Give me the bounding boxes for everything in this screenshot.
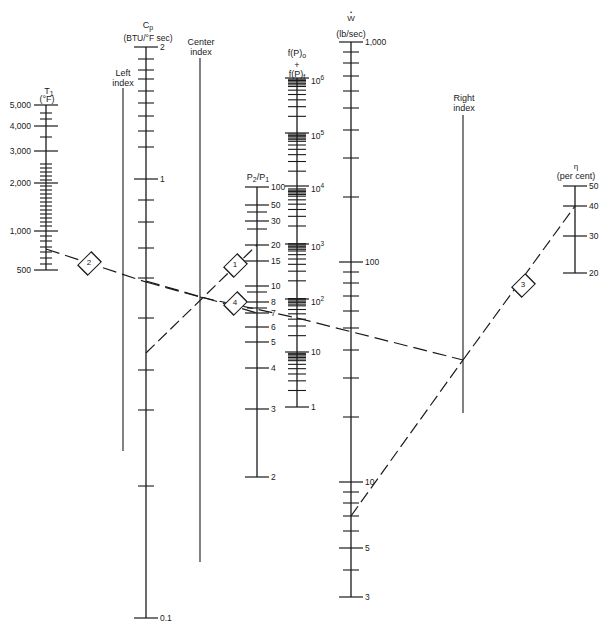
t1-scale-unit: (°F) xyxy=(30,94,64,104)
T1-tick-label: 2,000 xyxy=(10,178,31,188)
center-index-title-2: index xyxy=(182,47,220,57)
w-title-text: W xyxy=(343,15,359,23)
construction-line-center_to_right xyxy=(297,318,463,360)
P2P1-tick-label: 5 xyxy=(271,337,276,347)
center-index-title: Center index xyxy=(182,37,220,57)
T1-tick-label: 4,000 xyxy=(10,121,31,131)
P2P1-tick-label: 50 xyxy=(271,200,280,210)
fP-tick-label: 106 xyxy=(311,73,324,86)
fp-f-text: f(P) xyxy=(289,69,304,79)
p-sub2: 1 xyxy=(265,176,269,183)
fP-tick-label: 105 xyxy=(311,128,324,141)
Cp-tick-label: 0.1 xyxy=(160,613,172,623)
left-index-title-2: index xyxy=(108,78,138,88)
step-marker-number: 4 xyxy=(225,298,245,307)
cp-scale-unit: (BTU/°F sec) xyxy=(108,33,188,43)
fP-tick-label: 10 xyxy=(311,347,320,357)
fp-o-text: f(P) xyxy=(288,48,303,58)
eta-scale-unit: (per cent) xyxy=(552,171,600,181)
fP-tick-label: 103 xyxy=(311,239,324,252)
P2P1-tick-label: 6 xyxy=(271,322,276,332)
p-slash: /P xyxy=(257,172,266,182)
fp-scale-title: f(P)o + f(P)f xyxy=(280,48,314,82)
eta-tick-label: 50 xyxy=(589,181,598,191)
P2P1-tick-label: 10 xyxy=(271,281,280,291)
W-tick-label: 100 xyxy=(365,257,379,267)
W-tick-label: 10 xyxy=(365,477,374,487)
fP-tick-label: 1 xyxy=(311,402,316,412)
nomogram-canvas xyxy=(0,0,605,628)
W-tick-label: 5 xyxy=(365,543,370,553)
W-tick-label: 3 xyxy=(365,592,370,602)
right-index-title-1: Right xyxy=(447,93,481,103)
step-marker-number: 3 xyxy=(513,280,533,289)
W-tick-label: 1,000 xyxy=(365,37,386,47)
P2P1-tick-label: 20 xyxy=(271,240,280,250)
construction-line-3 xyxy=(351,360,463,516)
w-scale-title: • W xyxy=(343,10,359,23)
T1-tick-label: 5,000 xyxy=(10,100,31,110)
T1-tick-label: 1,000 xyxy=(10,226,31,236)
right-index-title: Right index xyxy=(447,93,481,113)
left-index-title-1: Left xyxy=(108,68,138,78)
eta-tick-label: 40 xyxy=(589,201,598,211)
fp-f-sub: f xyxy=(303,73,305,80)
fp-o-sub: o xyxy=(302,52,306,59)
P2P1-tick-label: 2 xyxy=(271,472,276,482)
fP-tick-label: 102 xyxy=(311,294,324,307)
P2P1-tick-label: 15 xyxy=(271,256,280,266)
Cp-tick-label: 2 xyxy=(160,42,165,52)
P2P1-tick-label: 30 xyxy=(271,216,280,226)
center-index-title-1: Center xyxy=(182,37,220,47)
eta-tick-label: 30 xyxy=(589,231,598,241)
P2P1-tick-label: 4 xyxy=(271,363,276,373)
P2P1-tick-label: 8 xyxy=(271,297,276,307)
P2P1-tick-label: 100 xyxy=(271,182,285,192)
cp-title-sub: p xyxy=(149,24,153,31)
T1-tick-label: 500 xyxy=(17,265,31,275)
step-marker-number: 1 xyxy=(225,260,245,269)
fP-tick-label: 104 xyxy=(311,181,324,194)
right-index-title-2: index xyxy=(447,103,481,113)
left-index-title: Left index xyxy=(108,68,138,88)
Cp-tick-label: 1 xyxy=(160,174,165,184)
P2P1-tick-label: 7 xyxy=(271,308,276,318)
step-marker-number: 2 xyxy=(79,258,99,267)
fp-plus: + xyxy=(280,61,314,69)
P2P1-tick-label: 3 xyxy=(271,404,276,414)
construction-lines xyxy=(46,206,575,516)
cp-scale-title: Cp xyxy=(138,20,158,33)
eta-tick-label: 20 xyxy=(589,268,598,278)
T1-tick-label: 3,000 xyxy=(10,146,31,156)
